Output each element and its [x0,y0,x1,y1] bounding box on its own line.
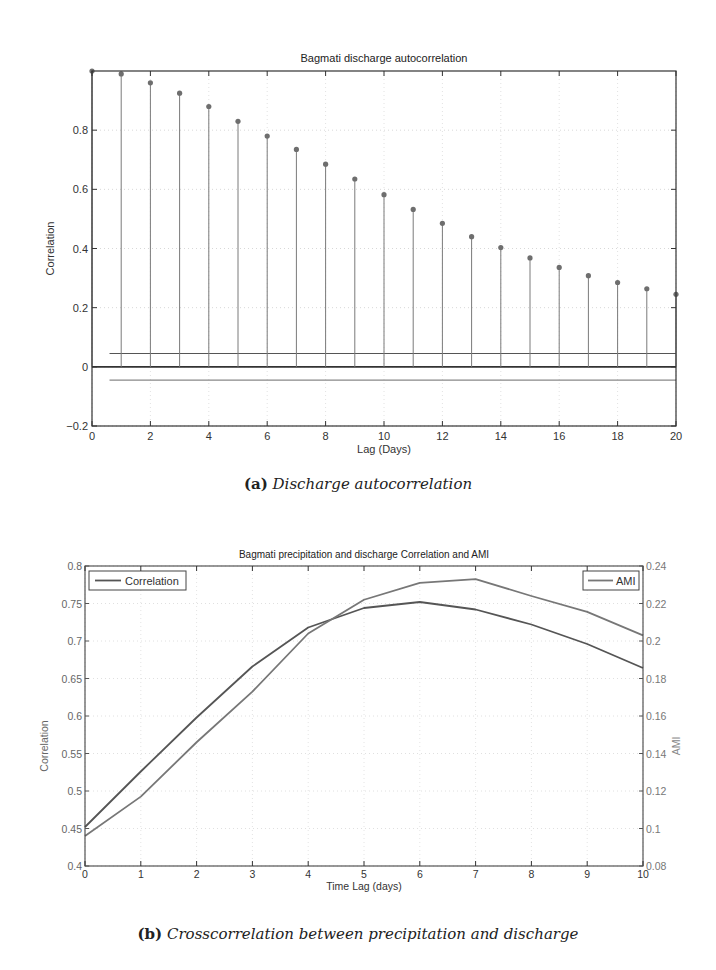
y-tick-label-right: 0.08 [646,860,667,872]
y-tick-label: −0.2 [66,420,88,432]
y-axis-label-right: AMI [670,737,682,756]
y-tick-label-right: 0.12 [646,785,667,797]
y-tick-label-left: 0.8 [67,560,82,572]
figure-a: Bagmati discharge autocorrelation0246810… [0,0,716,470]
x-tick-label: 9 [584,868,590,880]
chart-title: Bagmati discharge autocorrelation [301,52,468,64]
caption-b-tag: (b) [138,925,163,943]
x-tick-label: 7 [473,868,479,880]
x-tick-label: 0 [82,868,88,880]
x-tick-label: 2 [147,430,153,442]
y-tick-label: 0 [82,361,88,373]
y-tick-label-right: 0.2 [646,635,661,647]
stem-marker [352,176,357,181]
y-tick-label-right: 0.18 [646,673,667,685]
caption-b: (b) Crosscorrelation between precipitati… [0,925,716,943]
legend-correlation: Correlation [89,571,186,590]
y-tick-label-left: 0.45 [62,823,83,835]
stem-marker [323,162,328,167]
x-tick-label: 8 [323,430,329,442]
caption-a: (a) Discharge autocorrelation [0,475,716,493]
stem-marker [294,147,299,152]
y-tick-label: 0.4 [73,243,88,255]
stem-marker [411,207,416,212]
x-tick-label: 18 [611,430,623,442]
legend-ami: AMI [583,571,639,590]
y-tick-label-right: 0.16 [646,710,667,722]
caption-a-tag: (a) [244,475,268,493]
y-tick-label-left: 0.55 [62,748,83,760]
y-axis-label-left: Correlation [38,720,50,772]
stem-marker [498,245,503,250]
x-tick-label: 6 [417,868,423,880]
chart-title: Bagmati precipitation and discharge Corr… [239,549,489,560]
autocorrelation-stem-chart: Bagmati discharge autocorrelation0246810… [0,0,716,470]
stem-marker [177,91,182,96]
x-tick-label: 14 [495,430,507,442]
x-tick-label: 2 [194,868,200,880]
stem-marker [527,255,532,260]
y-tick-label-left: 0.75 [62,598,83,610]
x-tick-label: 10 [378,430,390,442]
x-axis-label: Time Lag (days) [326,880,401,892]
x-tick-label: 0 [89,430,95,442]
figure-b: Bagmati precipitation and discharge Corr… [0,530,716,900]
x-tick-label: 5 [361,868,367,880]
stem-marker [644,286,649,291]
y-tick-label: 0.2 [73,302,88,314]
y-tick-label: 0.6 [73,183,88,195]
x-axis-label: Lag (Days) [357,443,411,455]
legend-label: AMI [616,575,636,587]
y-tick-label-right: 0.14 [646,748,667,760]
y-tick-label-left: 0.6 [67,710,82,722]
caption-b-text: Crosscorrelation between precipitation a… [167,925,579,943]
stem-marker [265,133,270,138]
y-tick-label-right: 0.1 [646,823,661,835]
x-tick-label: 4 [305,868,311,880]
y-axis-label: Correlation [44,222,56,276]
x-tick-label: 1 [138,868,144,880]
stem-marker [381,192,386,197]
stem-marker [586,273,591,278]
series-line-ami [85,579,643,836]
x-tick-label: 16 [553,430,565,442]
stem-marker [557,265,562,270]
y-tick-label-right: 0.24 [646,560,667,572]
legend-label: Correlation [125,575,179,587]
y-tick-label-left: 0.65 [62,673,83,685]
y-tick-label-left: 0.4 [67,860,82,872]
stem-marker [469,234,474,239]
x-tick-label: 4 [206,430,212,442]
caption-a-text: Discharge autocorrelation [273,475,473,493]
y-tick-label-left: 0.7 [67,635,82,647]
crosscorrelation-ami-line-chart: Bagmati precipitation and discharge Corr… [0,530,716,900]
stem-marker [206,104,211,109]
x-tick-label: 12 [436,430,448,442]
y-tick-label: 0.8 [73,124,88,136]
stem-marker [615,280,620,285]
stem-marker [235,119,240,124]
x-tick-label: 20 [670,430,682,442]
x-tick-label: 3 [249,868,255,880]
y-tick-label-right: 0.22 [646,598,667,610]
x-tick-label: 6 [264,430,270,442]
x-tick-label: 8 [528,868,534,880]
stem-marker [440,221,445,226]
stem-marker [119,71,124,76]
y-tick-label-left: 0.5 [67,785,82,797]
stem-marker [148,80,153,85]
